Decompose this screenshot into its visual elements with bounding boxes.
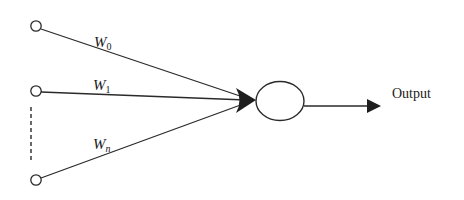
input-node-0: [31, 21, 41, 31]
output-arrowhead-icon: [367, 99, 381, 113]
input-node-1: [31, 86, 41, 96]
weight-edge-0: [41, 29, 246, 98]
weight-edge-n: [41, 103, 246, 178]
perceptron-diagram: W0 W1 Wn Output: [0, 0, 464, 200]
converging-arrowhead-icon: [236, 88, 256, 113]
neuron-node: [256, 82, 304, 121]
input-node-n: [31, 175, 41, 185]
weight-label-n: Wn: [93, 136, 111, 154]
output-label: Output: [392, 86, 431, 101]
weight-label-0: W0: [94, 34, 112, 52]
weight-label-1: W1: [93, 77, 111, 95]
weight-edge-1: [41, 92, 246, 100]
